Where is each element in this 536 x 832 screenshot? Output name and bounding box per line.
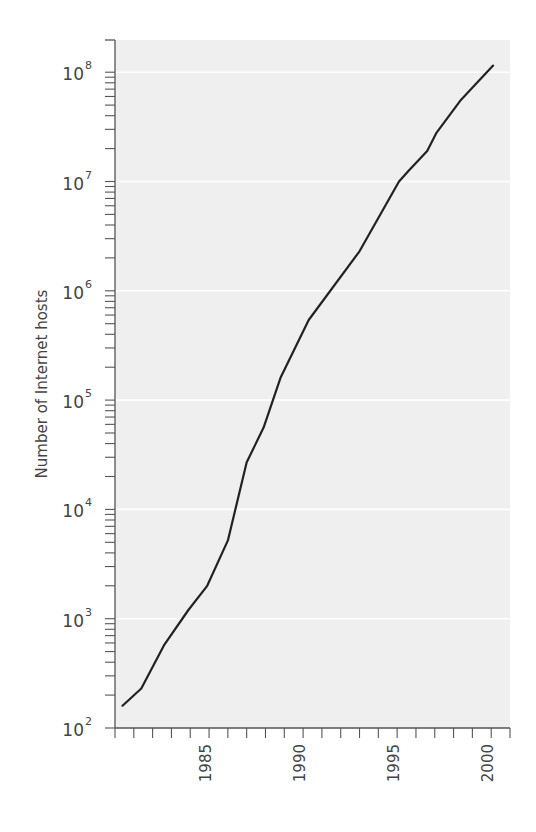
y-tick-label: 10 <box>62 64 84 84</box>
y-tick-exponent: 5 <box>85 387 92 400</box>
y-tick-exponent: 3 <box>85 606 92 619</box>
y-tick-label: 10 <box>62 720 84 740</box>
y-tick-exponent: 7 <box>85 169 92 182</box>
y-tick-exponent: 2 <box>85 715 92 728</box>
x-tick-label: 1995 <box>385 744 403 782</box>
y-tick-label: 10 <box>62 611 84 631</box>
y-tick-label: 10 <box>62 283 84 303</box>
y-axis: 102103104105106107108 <box>62 40 115 740</box>
x-tick-label: 2000 <box>479 744 497 782</box>
y-axis-label: Number of Internet hosts <box>33 289 51 478</box>
x-axis: 1985199019952000 <box>115 728 510 782</box>
x-tick-label: 1990 <box>291 744 309 782</box>
x-tick-label: 1985 <box>197 744 215 782</box>
y-tick-label: 10 <box>62 501 84 521</box>
plot-background <box>115 40 510 728</box>
internet-hosts-chart: 102103104105106107108 1985199019952000 N… <box>0 0 536 832</box>
y-tick-label: 10 <box>62 174 84 194</box>
y-tick-label: 10 <box>62 392 84 412</box>
y-tick-exponent: 4 <box>85 496 92 509</box>
y-tick-exponent: 8 <box>85 59 92 72</box>
y-tick-exponent: 6 <box>85 278 92 291</box>
